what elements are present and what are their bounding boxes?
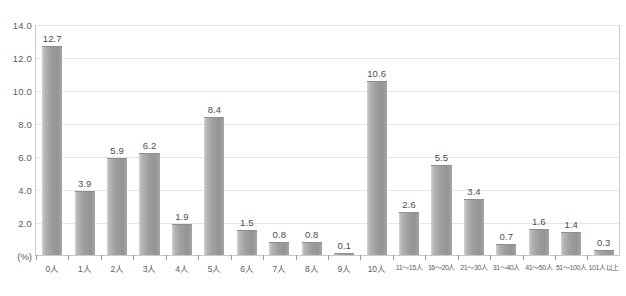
x-tick-slot — [328, 255, 360, 260]
x-tick-mark — [68, 255, 69, 260]
x-tick-slot — [231, 255, 263, 260]
bar-slot: 5.5 — [425, 25, 457, 255]
bar-value-label: 6.2 — [143, 140, 157, 151]
bars-layer: 12.73.95.96.21.98.41.50.80.80.110.62.65.… — [36, 25, 620, 255]
bar-slot: 1.6 — [523, 25, 555, 255]
bar[interactable] — [204, 117, 224, 255]
bar-value-label: 0.1 — [337, 240, 351, 251]
x-axis-label: 10人 — [360, 262, 392, 284]
bar-value-label: 5.9 — [110, 145, 124, 156]
bar[interactable] — [42, 46, 62, 255]
bar[interactable] — [302, 242, 322, 255]
x-tick-slot — [360, 255, 392, 260]
bar-slot: 1.4 — [555, 25, 587, 255]
x-tick-mark — [393, 255, 394, 260]
bar-slot: 1.9 — [166, 25, 198, 255]
bar[interactable] — [75, 191, 95, 255]
bar[interactable] — [561, 232, 581, 255]
x-tick-slot — [490, 255, 522, 260]
x-axis-label: 4人 — [166, 262, 198, 284]
bar-value-label: 3.4 — [467, 186, 481, 197]
x-tick-slot — [198, 255, 230, 260]
bar[interactable] — [431, 165, 451, 255]
x-axis-label: 0人 — [36, 262, 68, 284]
x-tick-mark — [296, 255, 297, 260]
x-tick-mark — [458, 255, 459, 260]
x-axis-label: 11～15人 — [393, 262, 425, 284]
y-axis: 14.012.010.08.06.04.02.0(%) — [0, 25, 32, 256]
x-tick-slot — [458, 255, 490, 260]
x-axis-label: 31～40人 — [490, 262, 522, 284]
bar-value-label: 0.7 — [500, 231, 514, 242]
y-axis-unit-label: (%) — [0, 251, 32, 262]
y-tick-label: 6.0 — [0, 152, 32, 163]
bar[interactable] — [269, 242, 289, 255]
x-tick-mark — [328, 255, 329, 260]
x-tick-slot — [36, 255, 68, 260]
bar-value-label: 0.8 — [305, 229, 319, 240]
x-axis-label: 7人 — [263, 262, 295, 284]
x-tick-slot — [263, 255, 295, 260]
x-tick-slot — [425, 255, 457, 260]
x-axis-label: 16～20人 — [425, 262, 457, 284]
bar[interactable] — [237, 230, 257, 255]
bar[interactable] — [399, 212, 419, 255]
bar-chart: 14.012.010.08.06.04.02.0(%) 12.73.95.96.… — [0, 0, 626, 296]
y-tick-label: 14.0 — [0, 20, 32, 31]
bar-slot: 1.5 — [231, 25, 263, 255]
x-tick-slot — [133, 255, 165, 260]
x-axis-label: 51～100人 — [555, 262, 587, 284]
x-axis-label: 3人 — [133, 262, 165, 284]
bar-value-label: 0.8 — [273, 229, 287, 240]
x-axis-label: 8人 — [296, 262, 328, 284]
bar-slot: 5.9 — [101, 25, 133, 255]
x-tick-mark — [101, 255, 102, 260]
bar-value-label: 0.3 — [597, 237, 611, 248]
x-tick-mark — [198, 255, 199, 260]
bar[interactable] — [464, 199, 484, 255]
bar-slot: 10.6 — [360, 25, 392, 255]
bar[interactable] — [496, 244, 516, 256]
bar-slot: 0.1 — [328, 25, 360, 255]
bar-slot: 0.8 — [263, 25, 295, 255]
x-tick-mark — [360, 255, 361, 260]
x-tick-slot — [555, 255, 587, 260]
y-tick-label: 12.0 — [0, 53, 32, 64]
x-tick-slot — [166, 255, 198, 260]
bar[interactable] — [172, 224, 192, 255]
x-axis-label: 6人 — [231, 262, 263, 284]
y-tick-label: 2.0 — [0, 218, 32, 229]
x-axis-label: 101人以上 — [587, 262, 619, 284]
x-axis-label: 21～30人 — [458, 262, 490, 284]
x-tick-mark — [36, 255, 37, 260]
bar-slot: 0.7 — [490, 25, 522, 255]
bar-slot: 6.2 — [133, 25, 165, 255]
x-tick-mark — [166, 255, 167, 260]
x-tick-slot — [393, 255, 425, 260]
y-tick-label: 4.0 — [0, 185, 32, 196]
x-tick-mark — [133, 255, 134, 260]
bar[interactable] — [529, 229, 549, 255]
x-tick-slot — [587, 255, 619, 260]
bar-slot: 3.9 — [68, 25, 100, 255]
x-axis-label: 1人 — [68, 262, 100, 284]
bar[interactable] — [139, 153, 159, 255]
x-tick-mark — [490, 255, 491, 260]
x-tick-slot — [68, 255, 100, 260]
bar-value-label: 1.6 — [532, 216, 546, 227]
bar-value-label: 3.9 — [78, 178, 92, 189]
bar-value-label: 1.5 — [240, 217, 254, 228]
x-tick-mark — [263, 255, 264, 260]
x-tick-mark — [231, 255, 232, 260]
bar-value-label: 10.6 — [367, 68, 386, 79]
bar[interactable] — [107, 158, 127, 255]
x-tick-slot — [101, 255, 133, 260]
bar-slot: 3.4 — [458, 25, 490, 255]
x-axis-label: 2人 — [101, 262, 133, 284]
bar-slot: 0.3 — [587, 25, 619, 255]
x-axis-label: 9人 — [328, 262, 360, 284]
bar[interactable] — [367, 81, 387, 255]
x-tick-mark — [555, 255, 556, 260]
x-axis-label: 5人 — [198, 262, 230, 284]
bar-slot: 12.7 — [36, 25, 68, 255]
